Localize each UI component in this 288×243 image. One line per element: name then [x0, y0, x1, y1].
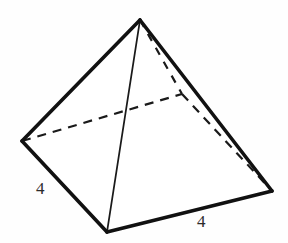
edge-length-label-left: 4 [36, 180, 45, 197]
pyramid-figure: 4 4 [0, 0, 288, 243]
pyramid-diagram [0, 0, 288, 243]
edge-length-label-bottom: 4 [197, 213, 206, 230]
